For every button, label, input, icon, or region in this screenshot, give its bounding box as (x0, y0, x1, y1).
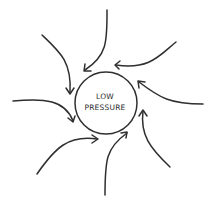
arrow-top-left (42, 35, 74, 94)
arrow-top-right (115, 42, 176, 69)
center-label-line1: LOW (73, 92, 137, 101)
arrow-top (84, 10, 107, 71)
arrow-bottom-left (37, 135, 98, 174)
low-pressure-diagram: LOW PRESSURE (0, 0, 209, 201)
arrow-left (13, 100, 75, 122)
arrow-right-upper (138, 81, 203, 104)
arrow-right-lower (139, 110, 170, 167)
arrow-bottom-right (105, 132, 127, 195)
center-label-line2: PRESSURE (73, 103, 137, 112)
